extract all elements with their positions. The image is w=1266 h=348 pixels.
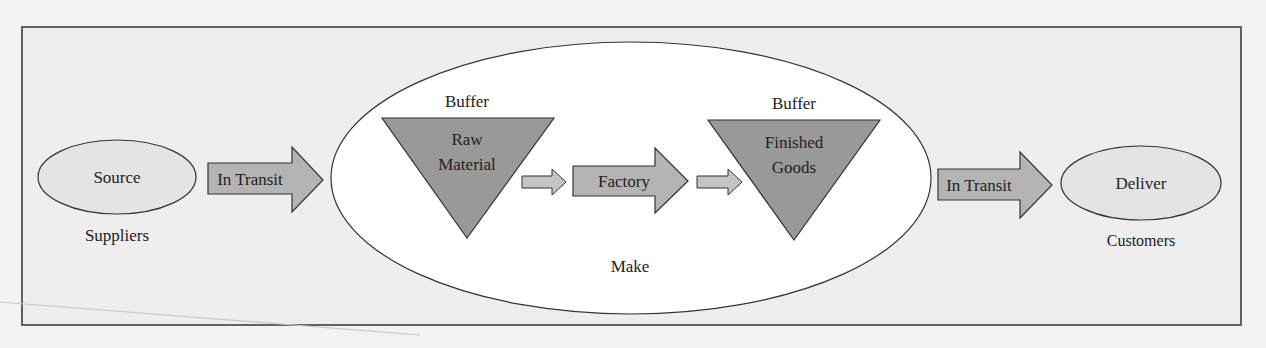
suppliers-caption: Suppliers (85, 226, 149, 245)
source-label: Source (93, 168, 140, 187)
customers-caption: Customers (1107, 232, 1175, 249)
in-transit-outbound-label: In Transit (946, 176, 1012, 195)
finished-buffer-line1: Finished (765, 133, 824, 152)
raw-buffer-title: Buffer (445, 92, 489, 111)
deliver-label: Deliver (1116, 174, 1167, 193)
make-caption: Make (611, 257, 650, 276)
in-transit-inbound-label: In Transit (217, 170, 283, 189)
raw-buffer-line1: Raw (451, 130, 483, 149)
factory-label: Factory (598, 172, 650, 191)
finished-buffer-line2: Goods (772, 158, 816, 177)
process-map-diagram: Source Suppliers In Transit Buffer Raw M… (0, 0, 1266, 348)
raw-buffer-line2: Material (438, 155, 496, 174)
make-stage: Buffer Raw Material Factory Buffer Finis… (331, 42, 931, 314)
finished-buffer-title: Buffer (772, 94, 816, 113)
